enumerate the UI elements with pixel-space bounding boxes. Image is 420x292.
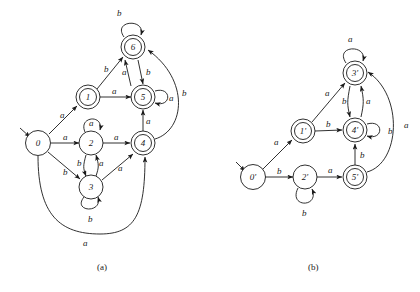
state-node-5p[interactable]: 5' <box>343 165 367 189</box>
edge-label-2-3: b <box>77 158 82 168</box>
edge-label-0-4: a <box>83 238 88 248</box>
state-label-1: 1 <box>86 92 91 102</box>
state-label-1p: 1' <box>300 126 308 136</box>
edge-label-5-6: a <box>122 67 127 77</box>
state-label-2: 2 <box>89 138 94 148</box>
edge-label-6-6: b <box>117 8 122 18</box>
state-label-2p: 2' <box>302 172 310 182</box>
edge-label-2p-2p: b <box>302 208 307 218</box>
state-node-2p[interactable]: 2' <box>293 165 317 189</box>
edge-1-6 <box>97 57 123 89</box>
automaton-a-nodes: 0 1 2 3 4 5 6 <box>26 35 156 199</box>
edge-label-0-3: b <box>63 167 68 177</box>
edge-label-3-4: a <box>118 163 123 173</box>
edge-label-1p-4p: b <box>326 119 331 129</box>
edge-label-2-2: a <box>89 118 94 128</box>
state-node-4p[interactable]: 4' <box>343 118 367 142</box>
edge-6-5 <box>138 60 143 84</box>
state-label-6: 6 <box>131 42 136 52</box>
state-label-3: 3 <box>88 182 94 192</box>
state-label-3p: 3' <box>351 68 360 78</box>
edge-label-4p-4p: b <box>388 126 393 136</box>
edge-label-3p-3p: a <box>348 34 353 44</box>
edge-label-4-5: a <box>146 116 151 126</box>
edge-label-6-5: b <box>146 67 151 77</box>
state-node-3p[interactable]: 3' <box>343 61 367 85</box>
state-label-4p: 4' <box>352 125 360 135</box>
figure-canvas: b b a b a a a b a a a a b a a b b a 0 1 … <box>0 0 420 292</box>
edge-3-2 <box>96 155 98 176</box>
edge-label-4-6: b <box>182 88 187 98</box>
edge-label-5-5: a <box>169 93 174 103</box>
edge-4p-4p-self <box>367 123 380 136</box>
state-label-4: 4 <box>141 138 146 148</box>
edge-label-1-5: a <box>112 86 117 96</box>
edge-3p-4p <box>348 86 350 117</box>
state-node-0p[interactable]: 0' <box>241 165 266 190</box>
state-node-3[interactable]: 3 <box>79 175 103 199</box>
edge-2-3 <box>84 155 86 176</box>
state-label-5: 5 <box>141 92 146 102</box>
edge-label-0-1: a <box>60 110 65 120</box>
state-node-1p[interactable]: 1' <box>291 119 315 143</box>
edge-label-2p-5p: a <box>328 165 333 175</box>
edge-label-0p-2p: b <box>277 166 282 176</box>
edge-5-5-self <box>155 90 168 103</box>
state-node-2[interactable]: 2 <box>79 131 103 155</box>
state-label-5p: 5' <box>352 172 360 182</box>
automata-figure: b b a b a a a b a a a a b a a b b a 0 1 … <box>0 0 420 292</box>
edge-2p-2p-self <box>296 188 313 203</box>
automaton-a-edges <box>20 23 179 234</box>
state-node-0[interactable]: 0 <box>26 131 51 156</box>
edge-4p-3p <box>361 86 363 117</box>
edge-label-0p-1p: a <box>274 137 279 147</box>
state-node-1[interactable]: 1 <box>76 85 100 109</box>
state-node-6[interactable]: 6 <box>121 35 145 59</box>
edge-label-0-2: a <box>63 132 68 142</box>
edge-label-3-2: a <box>99 158 104 168</box>
automaton-b-nodes: 0' 1' 2' 3' 4' 5' <box>241 61 368 190</box>
state-label-0: 0 <box>36 138 41 148</box>
edge-label-1p-3p: a <box>325 88 330 98</box>
edge-label-5p-3p: a <box>404 120 409 130</box>
edge-5p-3p <box>367 72 393 172</box>
caption-a: (a) <box>97 262 107 272</box>
state-node-4[interactable]: 4 <box>131 131 155 155</box>
edge-label-5p-4p: b <box>360 150 365 160</box>
state-label-0p: 0' <box>250 172 258 182</box>
edge-label-3-3: b <box>88 214 93 224</box>
state-node-5[interactable]: 5 <box>131 85 155 109</box>
edge-label-3p-4p: b <box>342 96 347 106</box>
edge-1p-4p <box>315 130 342 131</box>
edge-label-1-6: b <box>104 64 109 74</box>
edge-label-4p-3p: a <box>366 96 371 106</box>
edge-label-2-4: a <box>114 132 119 142</box>
caption-b: (b) <box>308 262 319 272</box>
